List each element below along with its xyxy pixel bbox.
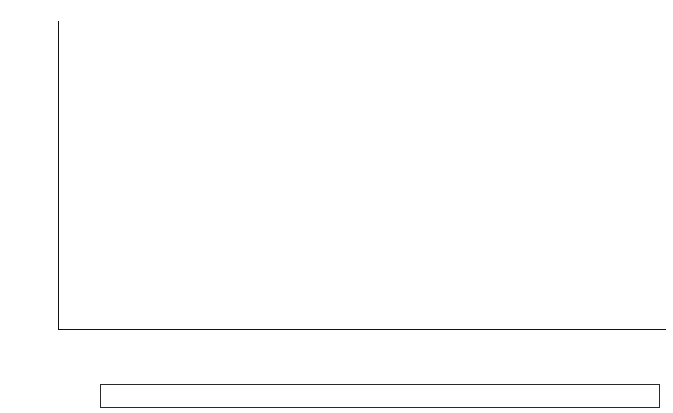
bar-series	[58, 21, 666, 330]
x-axis-labels	[58, 331, 666, 386]
chart-legend	[100, 384, 660, 408]
chart-figure	[0, 0, 673, 413]
plot-area	[58, 21, 666, 330]
